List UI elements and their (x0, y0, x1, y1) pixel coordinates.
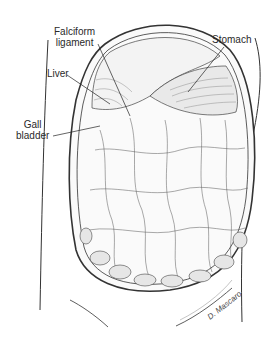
label-gall-line2: bladder (16, 130, 49, 141)
label-falciform-line1: Falciform (54, 26, 95, 37)
label-stomach: Stomach (212, 34, 251, 45)
body-outline-left (40, 40, 48, 310)
label-falciform-ligament: Falciform ligament (54, 26, 95, 48)
label-liver: Liver (47, 68, 69, 79)
label-gall-bladder: Gall bladder (16, 119, 49, 141)
label-gall-line1: Gall (16, 119, 49, 130)
label-falciform-line2: ligament (54, 37, 95, 48)
skin-fold-left (70, 300, 108, 327)
